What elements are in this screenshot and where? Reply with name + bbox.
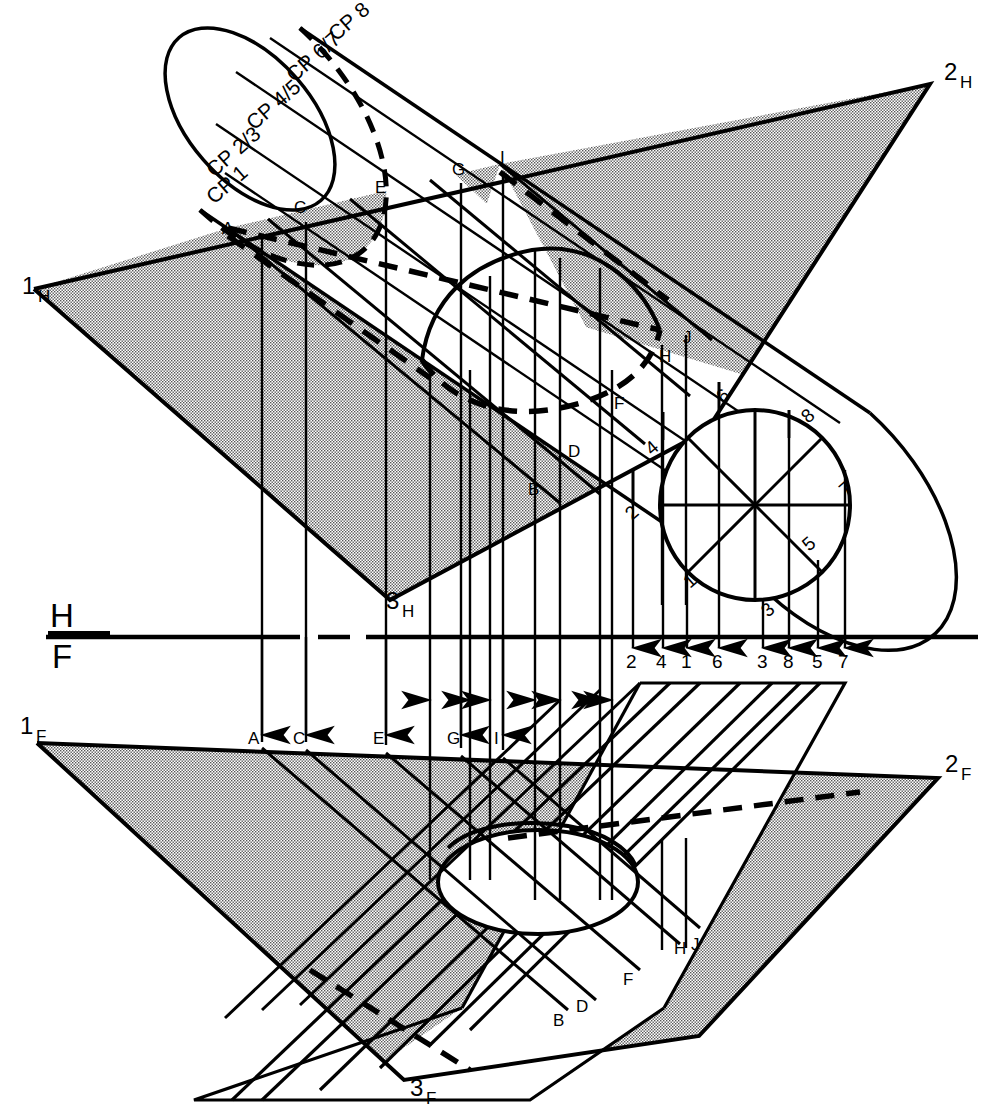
fold-number-7: 7 [838,651,849,672]
h-point-b: B [528,480,539,499]
label-3f-num: 3 [410,1074,423,1101]
f-point-h: H [674,939,686,958]
fold-number-5: 8 [783,651,794,672]
fold-number-1: 4 [656,651,667,672]
f-point-j: J [691,935,700,954]
label-2f-num: 2 [945,750,958,777]
h-point-f: F [614,394,624,413]
label-3h-num: 3 [386,587,399,614]
drawing-sheet: H F [0,0,992,1114]
h-point-h: H [659,347,671,366]
label-2h-sub: H [960,73,972,92]
fold-number-2: 1 [681,651,692,672]
label-1h-sub: H [38,287,50,306]
label-3f-sub: F [426,1089,436,1108]
technical-drawing-svg: H F [0,0,992,1114]
label-1f-sub: F [36,727,46,746]
f-point-c: C [293,729,305,748]
f-point-i: I [494,729,499,748]
fold-number-0: 2 [626,651,637,672]
h-point-d: D [568,442,580,461]
h-point-c: C [294,198,306,217]
h-point-a: A [222,219,234,238]
fold-number-labels: 2 4 1 6 3 8 5 7 [626,651,849,672]
label-3h-sub: H [402,602,414,621]
fold-number-3: 6 [712,651,723,672]
h-point-e: E [375,178,386,197]
fold-number-4: 3 [757,651,768,672]
f-point-g: G [447,729,460,748]
h-point-j: J [683,328,692,347]
f-point-d: D [576,997,588,1016]
h-point-i: I [500,148,505,167]
label-2f-sub: F [961,765,971,784]
fold-number-6: 5 [812,651,823,672]
f-point-b: B [553,1011,564,1030]
label-2h-num: 2 [944,58,957,85]
label-1h-num: 1 [22,272,35,299]
f-point-e: E [373,729,384,748]
h-point-g: G [452,160,465,179]
label-1f-num: 1 [20,712,33,739]
fold-label-h: H [50,597,74,634]
f-point-a: A [248,729,260,748]
f-point-f: F [623,970,633,989]
fold-label-f: F [52,638,72,675]
